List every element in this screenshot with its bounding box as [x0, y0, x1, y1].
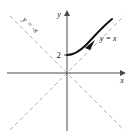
y-intercept-label: 2	[57, 50, 62, 60]
asymptote-positive-label: y = x	[99, 34, 117, 43]
math-figure: y x 2 y = -x y = x	[0, 0, 129, 136]
y-axis-arrowhead	[64, 10, 70, 16]
y-axis-label: y	[56, 10, 61, 19]
x-axis-label: x	[119, 76, 124, 85]
coordinate-plane: y x 2 y = -x y = x	[0, 0, 129, 136]
asymptote-negative-label: y = -x	[20, 14, 41, 35]
